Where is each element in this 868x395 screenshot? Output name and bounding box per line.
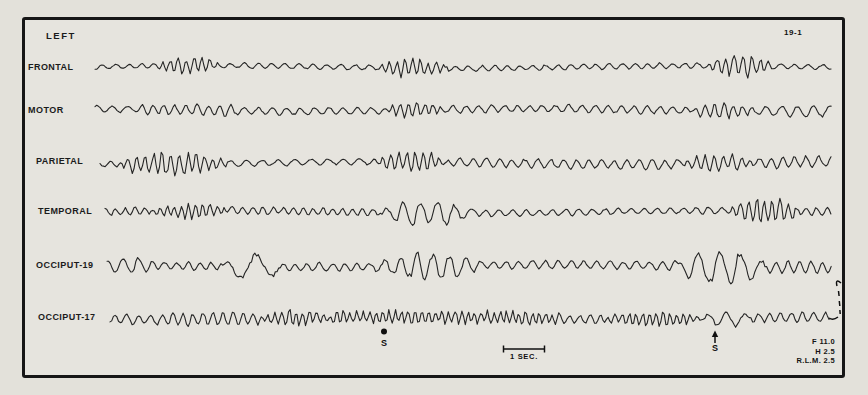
calibration-dash-mark xyxy=(829,281,841,319)
stimulus-dot-marker xyxy=(381,329,387,335)
recording-settings: F 11.0 H 2.5 R.L.M. 2.5 xyxy=(796,337,835,366)
stimulus-label-1: S xyxy=(378,338,390,348)
channel-label-occiput-19: OCCIPUT-19 xyxy=(36,260,94,270)
eeg-trace-motor xyxy=(95,103,831,119)
stimulus-label-2: S xyxy=(709,343,721,353)
setting-line-rlm: R.L.M. 2.5 xyxy=(796,356,835,366)
eeg-figure-photo: LEFT 19-1 FRONTAL MOTOR PARIETAL TEMPORA… xyxy=(0,0,868,395)
channel-label-frontal: FRONTAL xyxy=(28,62,73,72)
channel-label-parietal: PARIETAL xyxy=(36,156,83,166)
eeg-traces-canvas xyxy=(0,0,868,395)
setting-line-f: F 11.0 xyxy=(796,337,835,347)
channel-label-temporal: TEMPORAL xyxy=(38,206,92,216)
eeg-trace-frontal xyxy=(95,56,831,79)
eeg-trace-occiput-19 xyxy=(107,252,831,284)
time-scale-label: 1 SEC. xyxy=(495,352,553,361)
figure-number: 19-1 xyxy=(784,28,802,37)
channel-label-motor: MOTOR xyxy=(28,105,64,115)
channel-label-occiput-17: OCCIPUT-17 xyxy=(38,312,96,322)
stimulus-arrow-marker xyxy=(712,331,718,344)
eeg-trace-parietal xyxy=(100,152,831,176)
eeg-trace-temporal xyxy=(105,198,831,225)
eeg-trace-occiput-17 xyxy=(110,310,829,328)
setting-line-h: H 2.5 xyxy=(796,347,835,357)
side-label: LEFT xyxy=(46,30,76,41)
